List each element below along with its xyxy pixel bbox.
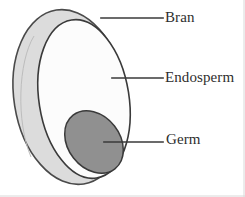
label-bran: Bran (165, 10, 195, 25)
kernel-illustration (0, 0, 245, 197)
label-endosperm: Endosperm (165, 70, 234, 85)
grain-kernel-figure: Bran Endosperm Germ (0, 0, 245, 197)
label-germ: Germ (166, 132, 201, 147)
